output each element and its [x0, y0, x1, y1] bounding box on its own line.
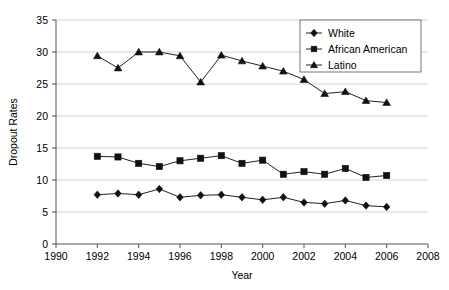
data-point-square-2002: [301, 169, 307, 175]
x-axis-title: Year: [231, 269, 253, 281]
data-point-square-2004: [342, 165, 348, 171]
y-tick-label-25: 25: [36, 78, 48, 90]
square-icon: [311, 46, 317, 52]
x-tick-label-2006: 2006: [375, 250, 399, 262]
x-tick-label-1992: 1992: [86, 250, 110, 262]
y-tick-label-10: 10: [36, 174, 48, 186]
line-chart: 1990199219941996199820002002200420062008…: [0, 0, 449, 290]
data-point-square-2000: [260, 157, 266, 163]
y-tick-label-35: 35: [36, 14, 48, 26]
y-tick-label-5: 5: [42, 206, 48, 218]
data-point-square-2006: [384, 172, 390, 178]
data-point-square-1995: [156, 163, 162, 169]
x-tick-label-1990: 1990: [44, 250, 68, 262]
data-point-square-2003: [322, 171, 328, 177]
x-tick-label-2000: 2000: [251, 250, 275, 262]
legend[interactable]: WhiteAfrican AmericanLatino: [300, 20, 421, 72]
data-point-square-2001: [280, 171, 286, 177]
data-point-square-1998: [218, 153, 224, 159]
y-tick-label-30: 30: [36, 46, 48, 58]
x-tick-label-2002: 2002: [292, 250, 316, 262]
y-axis-title: Dropout Rates: [7, 98, 19, 166]
legend-label-2: Latino: [328, 59, 357, 71]
legend-label-1: African American: [328, 43, 408, 55]
x-tick-label-1998: 1998: [210, 250, 234, 262]
x-tick-label-1996: 1996: [168, 250, 192, 262]
data-point-square-2005: [363, 174, 369, 180]
x-tick-label-2004: 2004: [334, 250, 358, 262]
data-point-square-1994: [136, 160, 142, 166]
legend-label-0: White: [328, 27, 355, 39]
data-point-square-1999: [239, 160, 245, 166]
x-tick-label-2008: 2008: [416, 250, 440, 262]
data-point-square-1996: [177, 158, 183, 164]
data-point-square-1997: [198, 155, 204, 161]
x-tick-label-1994: 1994: [127, 250, 151, 262]
chart-container: 1990199219941996199820002002200420062008…: [0, 0, 449, 290]
y-tick-label-0: 0: [42, 238, 48, 250]
y-tick-label-20: 20: [36, 110, 48, 122]
y-tick-label-15: 15: [36, 142, 48, 154]
data-point-square-1992: [94, 153, 100, 159]
data-point-square-1993: [115, 154, 121, 160]
